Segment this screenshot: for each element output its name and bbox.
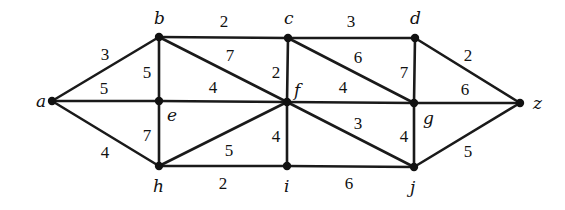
edge-weight-a-e: 5 xyxy=(100,79,109,98)
vertex-label-d: d xyxy=(410,8,421,28)
vertex-a xyxy=(48,97,56,105)
edge-weight-j-z: 5 xyxy=(464,142,473,161)
vertex-label-f: f xyxy=(292,80,303,100)
edge-weight-g-j: 4 xyxy=(400,127,409,146)
vertex-g xyxy=(410,99,418,107)
vertex-c xyxy=(284,34,292,42)
vertex-z xyxy=(516,99,524,107)
edge-weight-f-i: 4 xyxy=(272,127,281,146)
edge-weight-i-j: 6 xyxy=(345,174,354,193)
edge-weight-b-e: 5 xyxy=(143,63,152,82)
edge-weight-a-h: 4 xyxy=(101,143,110,162)
vertex-j xyxy=(410,163,418,171)
vertex-d xyxy=(411,34,419,42)
vertex-f xyxy=(283,98,291,106)
edge-e-f xyxy=(159,101,287,102)
vertex-label-i: i xyxy=(284,176,289,196)
vertex-e xyxy=(155,97,163,105)
edge-f-h xyxy=(159,102,287,166)
edge-b-f xyxy=(159,37,287,102)
edge-weight-f-h: 5 xyxy=(225,141,234,160)
vertex-h xyxy=(155,162,163,170)
edge-f-g xyxy=(287,102,414,103)
edge-weight-g-z: 6 xyxy=(461,80,470,99)
edge-weight-b-f: 7 xyxy=(226,46,235,65)
edge-weight-b-c: 2 xyxy=(220,12,229,31)
edge-i-j xyxy=(287,166,414,167)
edge-d-g xyxy=(414,38,415,103)
vertex-label-h: h xyxy=(153,176,164,196)
edge-weight-d-z: 2 xyxy=(464,46,473,65)
vertex-label-z: z xyxy=(532,93,543,113)
vertex-label-j: j xyxy=(406,177,416,197)
vertex-i xyxy=(283,162,291,170)
edge-weight-d-g: 7 xyxy=(400,63,409,82)
edge-b-c xyxy=(159,37,288,38)
vertex-label-a: a xyxy=(36,91,46,111)
edge-c-g xyxy=(288,38,414,103)
vertex-label-c: c xyxy=(284,8,294,28)
vertex-label-b: b xyxy=(154,8,165,28)
edge-weight-f-g: 4 xyxy=(339,78,348,97)
graph-canvas: abcdefghijz 3542573267247454346265 xyxy=(0,0,565,210)
edge-weight-a-b: 3 xyxy=(101,45,110,64)
edge-weight-h-i: 2 xyxy=(219,174,228,193)
vertex-label-e: e xyxy=(167,105,177,125)
edge-weight-c-g: 6 xyxy=(354,48,363,67)
vertex-b xyxy=(155,33,163,41)
edge-c-f xyxy=(287,38,288,102)
vertex-label-g: g xyxy=(423,108,434,128)
edge-weight-e-h: 7 xyxy=(143,126,152,145)
weighted-graph-diagram: abcdefghijz 3542573267247454346265 xyxy=(0,0,565,210)
edge-weight-e-f: 4 xyxy=(209,78,218,97)
edge-weight-c-f: 2 xyxy=(272,63,281,82)
edge-f-j xyxy=(287,102,414,167)
edge-weight-f-j: 3 xyxy=(354,114,363,133)
edge-weight-c-d: 3 xyxy=(347,12,356,31)
